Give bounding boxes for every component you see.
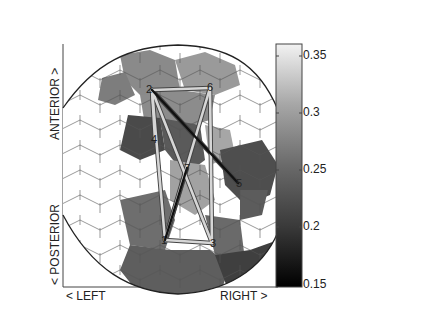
colorbar-tick-0.3: 0.3	[303, 105, 320, 119]
node-3-label: 3	[210, 237, 216, 249]
x-label-left: < LEFT	[66, 289, 106, 303]
node-5-label: 5	[236, 177, 242, 189]
y-label-posterior: < POSTERIOR	[48, 204, 62, 285]
colorbar-tick-0.15: 0.15	[303, 277, 326, 291]
colorbar	[276, 44, 302, 287]
node-4-label: 4	[151, 133, 157, 145]
node-2-label: 2	[146, 83, 152, 95]
node-7-label: 7	[184, 162, 190, 174]
colorbar-tick-0.35: 0.35	[303, 48, 326, 62]
colorbar-tick-0.2: 0.2	[303, 219, 320, 233]
topomap-plot: 2 6 4 7 5 1 3	[0, 0, 441, 311]
x-label-right: RIGHT >	[220, 289, 267, 303]
node-1-label: 1	[161, 234, 167, 246]
y-label-anterior: ANTERIOR >	[48, 68, 62, 140]
colorbar-tick-0.25: 0.25	[303, 162, 326, 176]
node-6-label: 6	[207, 81, 213, 93]
voronoi-cells	[60, 40, 282, 300]
topomap-figure: 2 6 4 7 5 1 3 0.35 0.3 0.25 0.2 0.15 < L…	[0, 0, 441, 311]
